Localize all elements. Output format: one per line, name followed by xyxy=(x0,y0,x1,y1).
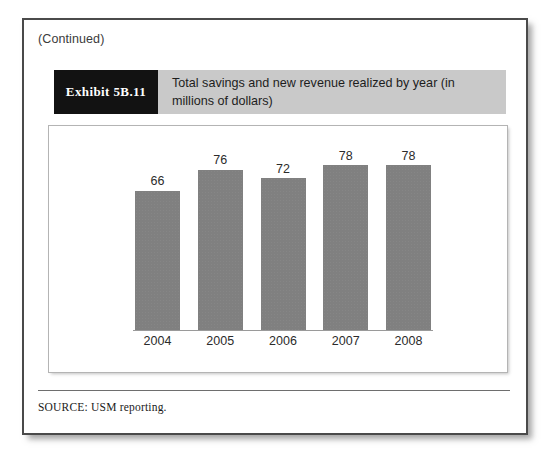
x-tick-label: 2006 xyxy=(261,332,306,350)
continued-label: (Continued) xyxy=(38,32,104,46)
exhibit-page-card: (Continued) Exhibit 5B.11 Total savings … xyxy=(22,18,528,435)
exhibit-number-tag: Exhibit 5B.11 xyxy=(54,70,158,114)
exhibit-title: Total savings and new revenue realized b… xyxy=(158,70,506,114)
footer-divider xyxy=(38,390,510,391)
source-note: SOURCE: USM reporting. xyxy=(38,401,167,413)
chart-frame: 66 76 72 78 xyxy=(48,125,508,373)
bar-rect xyxy=(198,170,243,330)
bar-column: 78 xyxy=(323,140,368,330)
x-axis-tick-labels: 2004 2005 2006 2007 2008 xyxy=(135,332,431,352)
x-axis-line xyxy=(133,330,433,331)
bar-column: 76 xyxy=(198,140,243,330)
bar-value-label: 72 xyxy=(276,163,290,176)
bar-value-label: 78 xyxy=(339,150,353,163)
bar-rect xyxy=(386,165,431,330)
bar-column: 66 xyxy=(135,140,180,330)
x-tick-label: 2004 xyxy=(135,332,180,350)
bar-column: 78 xyxy=(386,140,431,330)
x-tick-label: 2005 xyxy=(198,332,243,350)
bar-chart-plot-area: 66 76 72 78 xyxy=(135,140,431,352)
x-tick-label: 2008 xyxy=(386,332,431,350)
bar-rect xyxy=(323,165,368,330)
bar-column: 72 xyxy=(261,140,306,330)
x-tick-label: 2007 xyxy=(323,332,368,350)
exhibit-header-band: Exhibit 5B.11 Total savings and new reve… xyxy=(54,70,506,114)
bar-rect xyxy=(135,191,180,330)
page-root: (Continued) Exhibit 5B.11 Total savings … xyxy=(0,0,557,459)
bar-rect xyxy=(261,178,306,330)
bar-series: 66 76 72 78 xyxy=(135,140,431,330)
bar-value-label: 76 xyxy=(213,154,227,167)
bar-value-label: 66 xyxy=(151,175,165,188)
bar-value-label: 78 xyxy=(402,150,416,163)
